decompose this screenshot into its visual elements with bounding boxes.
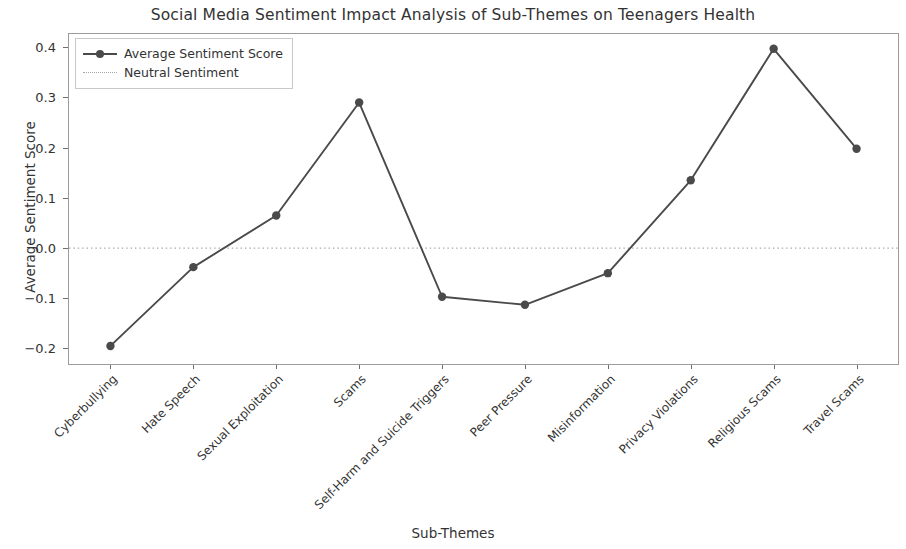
data-point-marker: [438, 293, 446, 301]
chart-legend: Average Sentiment Score Neutral Sentimen…: [75, 38, 293, 89]
legend-item-neutral-sentiment: Neutral Sentiment: [83, 63, 283, 82]
data-point-marker: [521, 301, 529, 309]
y-tick-label: 0.3: [8, 90, 56, 105]
data-point-marker: [604, 269, 612, 277]
y-tick-label: −0.1: [8, 291, 56, 306]
y-tick-label: 0.0: [8, 241, 56, 256]
data-point-marker: [189, 263, 197, 271]
chart-title: Social Media Sentiment Impact Analysis o…: [0, 6, 906, 24]
y-tick-label: 0.4: [8, 40, 56, 55]
data-point-marker: [769, 45, 777, 53]
legend-label-neutral-sentiment: Neutral Sentiment: [124, 65, 239, 80]
legend-label-average-sentiment-score: Average Sentiment Score: [124, 46, 283, 61]
line-marker-icon: [83, 47, 117, 61]
data-point-marker: [687, 176, 695, 184]
dotted-line-icon: [83, 66, 117, 80]
y-tick-label: −0.2: [8, 341, 56, 356]
data-point-marker: [355, 98, 363, 106]
y-tick-label: 0.2: [8, 140, 56, 155]
legend-item-average-sentiment-score: Average Sentiment Score: [83, 44, 283, 63]
data-point-marker: [106, 342, 114, 350]
data-point-marker: [272, 211, 280, 219]
chart-figure: Social Media Sentiment Impact Analysis o…: [0, 0, 906, 549]
data-point-marker: [852, 144, 860, 152]
y-tick-label: 0.1: [8, 190, 56, 205]
average-sentiment-score-series: [106, 45, 861, 351]
